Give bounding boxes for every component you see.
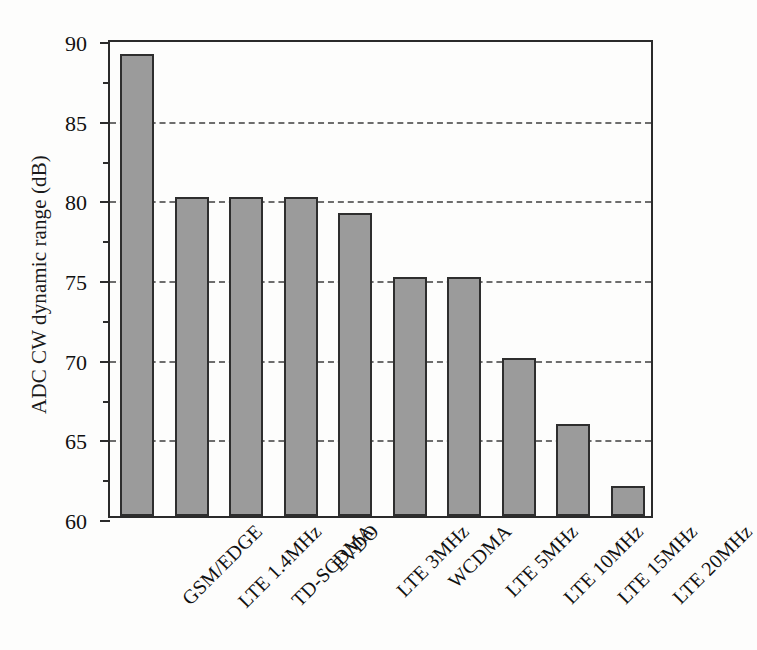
y-tick-major: 70 <box>100 361 110 363</box>
y-tick-minor <box>103 321 110 323</box>
x-axis-labels: GSM/EDGELTE 1.4MHzTD-SCDMAEVDOLTE 3MHzWC… <box>108 520 653 650</box>
bar <box>120 54 154 516</box>
y-tick-label: 70 <box>65 350 87 376</box>
y-tick-major: 65 <box>100 440 110 442</box>
y-tick-major: 75 <box>100 281 110 283</box>
y-tick-major: 80 <box>100 201 110 203</box>
y-tick-label: 60 <box>65 509 87 535</box>
y-tick-minor <box>103 162 110 164</box>
y-axis-title: ADC CW dynamic range (dB) <box>27 115 52 455</box>
y-tick-minor <box>103 480 110 482</box>
bar <box>229 197 263 516</box>
y-tick-minor <box>103 241 110 243</box>
y-tick-major: 85 <box>100 122 110 124</box>
bars-layer <box>110 42 651 516</box>
y-tick-label: 85 <box>65 111 87 137</box>
bar <box>447 277 481 516</box>
bar <box>556 424 590 516</box>
plot-area: 60657075808590 <box>108 40 653 518</box>
bar <box>502 358 536 516</box>
bar <box>338 213 372 516</box>
bar <box>284 197 318 516</box>
y-tick-minor <box>103 82 110 84</box>
bar <box>175 197 209 516</box>
y-tick-major: 90 <box>100 42 110 44</box>
y-tick-label: 80 <box>65 190 87 216</box>
bar <box>611 486 645 516</box>
bar <box>393 277 427 516</box>
y-tick-label: 90 <box>65 31 87 57</box>
y-tick-minor <box>103 401 110 403</box>
y-tick-label: 65 <box>65 429 87 455</box>
y-tick-label: 75 <box>65 270 87 296</box>
